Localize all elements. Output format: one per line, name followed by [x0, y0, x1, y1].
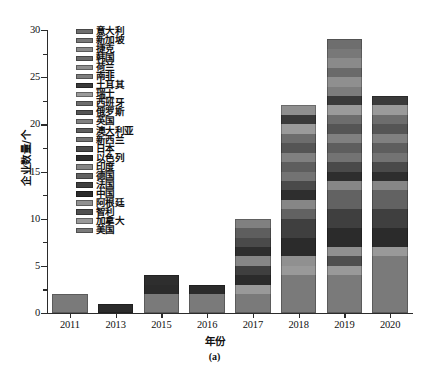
- figure-caption: (a): [0, 351, 429, 362]
- legend-swatch-icon: [76, 137, 93, 142]
- x-tick-2011: [70, 313, 71, 318]
- bar-segment: [189, 285, 225, 294]
- bar-segment: [235, 266, 271, 275]
- bar-segment: [327, 172, 363, 181]
- bar-segment: [327, 143, 363, 152]
- bar-segment: [372, 162, 408, 171]
- legend-swatch-icon: [76, 146, 93, 151]
- x-tick-label-2015: 2015: [138, 319, 184, 330]
- legend-swatch-icon: [76, 173, 93, 178]
- bar-segment: [327, 124, 363, 133]
- bar-segment: [281, 172, 317, 181]
- bar-segment: [281, 200, 317, 209]
- legend-swatch-icon: [76, 209, 93, 214]
- bar-segment: [189, 294, 225, 313]
- legend-swatch-icon: [76, 218, 93, 223]
- x-axis-title: 年份: [0, 333, 429, 348]
- x-tick-2020: [390, 313, 391, 318]
- bar-segment: [327, 266, 363, 275]
- x-tick-2013: [116, 313, 117, 318]
- x-tick-2019: [344, 313, 345, 318]
- bar-segment: [372, 143, 408, 152]
- bar-segment: [281, 219, 317, 238]
- legend-swatch-icon: [76, 191, 93, 196]
- bar-segment: [327, 68, 363, 77]
- bar-segment: [235, 285, 271, 294]
- y-tick-label-25: 25: [16, 71, 40, 82]
- bar-segment: [372, 105, 408, 114]
- x-tick-label-2016: 2016: [184, 319, 230, 330]
- bar-segment: [281, 256, 317, 265]
- bar-segment: [144, 275, 180, 284]
- legend-swatch-icon: [76, 56, 93, 61]
- bar-segment: [372, 96, 408, 105]
- bar-segment: [281, 190, 317, 199]
- legend-label: 美国: [96, 225, 115, 235]
- bar-segment: [372, 181, 408, 190]
- chart-legend: 意大利新加坡捷克韩国荷兰南非土耳其瑞士西班牙俄罗斯英国澳大利亚新西兰日本以色列印…: [76, 27, 206, 235]
- bar-segment: [372, 124, 408, 133]
- y-tick-label-10: 10: [16, 213, 40, 224]
- bar-segment: [235, 256, 271, 265]
- bar-segment: [281, 105, 317, 114]
- bar-segment: [281, 124, 317, 133]
- bar-segment: [327, 247, 363, 256]
- bar-segment: [235, 294, 271, 313]
- bar-segment: [372, 256, 408, 313]
- x-tick-label-2019: 2019: [321, 319, 367, 330]
- bar-segment: [327, 105, 363, 114]
- bar-segment: [281, 162, 317, 171]
- bar-segment: [327, 49, 363, 58]
- legend-item[interactable]: 美国: [76, 226, 206, 235]
- bar-segment: [281, 115, 317, 124]
- bar-segment: [327, 153, 363, 162]
- legend-swatch-icon: [76, 101, 93, 106]
- y-tick-label-5: 5: [16, 260, 40, 271]
- bar-segment: [235, 219, 271, 228]
- legend-swatch-icon: [76, 38, 93, 43]
- bar-segment: [372, 190, 408, 209]
- bar-segment: [372, 172, 408, 181]
- x-tick-2017: [253, 313, 254, 318]
- bar-segment: [327, 162, 363, 171]
- x-tick-2016: [207, 313, 208, 318]
- bar-segment: [281, 134, 317, 143]
- bar-segment: [327, 134, 363, 143]
- bar-segment: [372, 134, 408, 143]
- bar-segment: [144, 285, 180, 294]
- y-tick-label-0: 0: [16, 307, 40, 318]
- bar-segment: [281, 275, 317, 313]
- legend-swatch-icon: [76, 228, 93, 233]
- x-axis-line: [47, 313, 413, 314]
- bar-segment: [327, 96, 363, 105]
- x-tick-label-2013: 2013: [93, 319, 139, 330]
- legend-swatch-icon: [76, 164, 93, 169]
- legend-swatch-icon: [76, 92, 93, 97]
- x-tick-2015: [161, 313, 162, 318]
- bar-segment: [281, 181, 317, 190]
- legend-swatch-icon: [76, 65, 93, 70]
- bar-segment: [281, 266, 317, 275]
- legend-swatch-icon: [76, 29, 93, 34]
- x-tick-label-2017: 2017: [230, 319, 276, 330]
- bar-segment: [281, 153, 317, 162]
- y-axis-title: 企业数量/个: [18, 103, 33, 213]
- legend-swatch-icon: [76, 182, 93, 187]
- bar-segment: [372, 209, 408, 228]
- legend-swatch-icon: [76, 110, 93, 115]
- bar-segment: [98, 304, 134, 313]
- legend-swatch-icon: [76, 74, 93, 79]
- bar-segment: [281, 209, 317, 218]
- bar-segment: [281, 238, 317, 257]
- bar-segment: [327, 275, 363, 313]
- bar-segment: [327, 181, 363, 190]
- bar-segment: [235, 228, 271, 237]
- bar-segment: [144, 294, 180, 313]
- bar-segment: [235, 238, 271, 247]
- bar-segment: [372, 115, 408, 124]
- bar-segment: [327, 190, 363, 209]
- bar-segment: [327, 209, 363, 228]
- legend-swatch-icon: [76, 155, 93, 160]
- x-tick-label-2011: 2011: [47, 319, 93, 330]
- bar-segment: [327, 77, 363, 86]
